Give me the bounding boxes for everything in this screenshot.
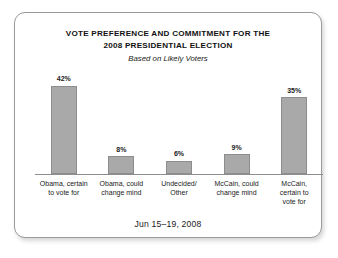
category-label-mccain-certain: McCain,certain tovote for xyxy=(265,179,323,207)
category-label-mccain-could-change: McCain, couldchange mind xyxy=(208,179,266,207)
chart-footer-date: Jun 15–19, 2008 xyxy=(15,219,321,229)
bar-value-label: 8% xyxy=(116,146,126,154)
category-label-obama-could-change: Obama, couldchange mind xyxy=(93,179,151,207)
bar-slot-obama-could-change: 8% xyxy=(93,75,151,174)
bar-slot-mccain-could-change: 9% xyxy=(208,75,266,174)
bar-rect[interactable] xyxy=(51,86,77,175)
chart-title-line-2: 2008 PRESIDENTIAL ELECTION xyxy=(15,40,321,52)
bar-slot-obama-certain: 42% xyxy=(35,75,93,174)
bar-slot-mccain-certain: 35% xyxy=(265,75,323,174)
bar-series: 42% 8% 6% 9% 35% xyxy=(35,75,323,174)
bar-slot-undecided-other: 6% xyxy=(150,75,208,174)
bar-rect[interactable] xyxy=(166,161,192,174)
chart-subtitle: Based on Likely Voters xyxy=(15,53,321,65)
x-axis-line xyxy=(35,174,323,175)
chart-title-block: VOTE PREFERENCE AND COMMITMENT FOR THE 2… xyxy=(15,28,321,65)
category-label-undecided-other: Undecided/Other xyxy=(150,179,208,207)
chart-card: VOTE PREFERENCE AND COMMITMENT FOR THE 2… xyxy=(14,12,322,238)
bar-value-label: 6% xyxy=(174,150,184,158)
plot-area: 42% 8% 6% 9% 35% xyxy=(35,75,323,175)
chart-screenshot: VOTE PREFERENCE AND COMMITMENT FOR THE 2… xyxy=(0,0,338,258)
bar-rect[interactable] xyxy=(108,156,134,174)
bar-rect[interactable] xyxy=(281,97,307,174)
category-label-obama-certain: Obama, certainto vote for xyxy=(35,179,93,207)
bar-rect[interactable] xyxy=(224,154,250,174)
bar-value-label: 42% xyxy=(57,75,71,83)
bar-value-label: 35% xyxy=(287,87,301,95)
chart-title-line-1: VOTE PREFERENCE AND COMMITMENT FOR THE xyxy=(15,28,321,40)
bar-value-label: 9% xyxy=(232,144,242,152)
category-axis-labels: Obama, certainto vote for Obama, couldch… xyxy=(35,179,323,207)
